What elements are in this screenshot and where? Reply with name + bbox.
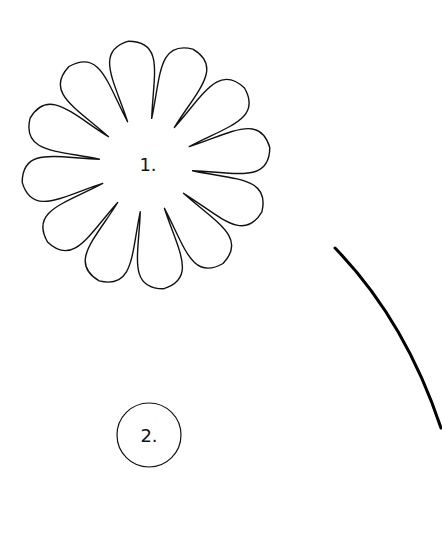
flower-label: 1.: [139, 154, 156, 175]
circle-label: 2.: [140, 425, 157, 446]
curved-arc-line: [335, 248, 441, 428]
diagram-canvas: 1. 2.: [0, 0, 442, 534]
